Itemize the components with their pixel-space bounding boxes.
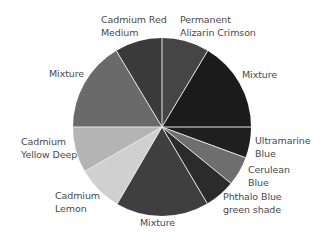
slice-label-line: Ultramarine [255, 134, 310, 147]
slice-label: Mixture [49, 67, 84, 80]
slice-label-line: Cadmium [55, 189, 100, 202]
slice-label-line: Phthalo Blue [223, 190, 282, 203]
slice-label-line: Blue [248, 176, 290, 189]
slice-label: Mixture [140, 216, 175, 229]
slice-label-line: Mixture [242, 68, 277, 81]
slice-label-line: Blue [255, 147, 310, 160]
slice-label: CeruleanBlue [248, 163, 290, 189]
slice-label: Cadmium RedMedium [101, 13, 167, 39]
slice-label-line: Yellow Deep [21, 148, 77, 161]
slice-label-line: Lemon [55, 202, 100, 215]
slice-label-line: Cerulean [248, 163, 290, 176]
slice-label: Mixture [242, 68, 277, 81]
slice-label: PermanentAlizarin Crimson [180, 13, 256, 39]
slice-label-line: green shade [223, 203, 282, 216]
slice-label: CadmiumYellow Deep [21, 135, 77, 161]
slice-label-line: Alizarin Crimson [180, 26, 256, 39]
slice-label: UltramarineBlue [255, 134, 310, 160]
slice-label-line: Medium [101, 26, 167, 39]
slice-label-line: Mixture [140, 216, 175, 229]
slice-label: CadmiumLemon [55, 189, 100, 215]
slice-label-line: Cadmium [21, 135, 77, 148]
slice-label: Phthalo Bluegreen shade [223, 190, 282, 216]
slice-label-line: Mixture [49, 67, 84, 80]
slice-label-line: Cadmium Red [101, 13, 167, 26]
slice-label-line: Permanent [180, 13, 256, 26]
